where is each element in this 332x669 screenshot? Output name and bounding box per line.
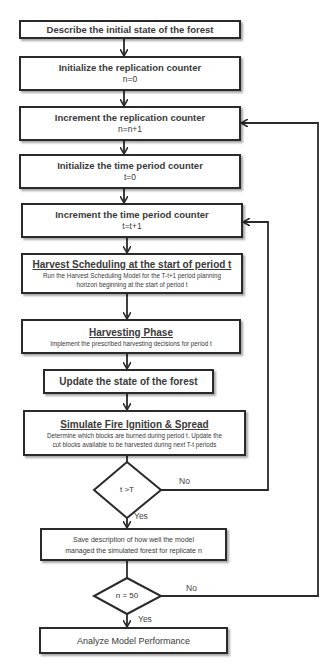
decision-rep-check: n = 50 [104,591,150,600]
decision-rep-check-yes-label: Yes [138,614,152,624]
step-save-description: Save description of how well the model m… [40,528,227,561]
step-increment-time: Increment the time period counter t=t+1 [21,203,243,238]
step-text: Initialize the replication counter [59,62,202,74]
step-formula: t=t+1 [122,221,141,232]
step-increment-replication: Increment the replication counter n=n+1 [19,106,241,141]
step-text: Describe the initial state of the forest [47,24,214,36]
loop-rep-no [161,123,318,596]
step-desc-line1: Determine which blocks are burned during… [47,431,222,440]
step-desc-line2: cut blocks available to be harvested dur… [52,440,216,449]
step-desc-line2: horizon beginning at the start of period… [77,280,188,289]
step-heading: Simulate Fire Ignition & Spread [60,418,208,431]
step-text: Update the state of the forest [59,376,197,388]
decision-time-check: t >T [104,485,150,494]
step-harvest-scheduling: Harvest Scheduling at the start of perio… [21,253,243,294]
step-desc-line1: Save description of how well the model [73,534,194,545]
step-desc-line1: Implement the prescribed harvesting deci… [50,339,212,348]
step-text: Increment the replication counter [55,112,205,124]
step-update-forest: Update the state of the forest [43,369,214,394]
step-text: Analyze Model Performance [77,635,190,647]
decision-time-check-yes-label: Yes [134,511,148,521]
step-simulate-fire: Simulate Fire Ignition & Spread Determin… [23,410,246,456]
decision-time-check-no-label: No [179,476,190,486]
step-initialize-replication: Initialize the replication counter n=0 [19,56,241,91]
step-describe-initial-state: Describe the initial state of the forest [19,20,241,39]
step-initialize-time: Initialize the time period counter t=0 [19,154,241,189]
step-text: Initialize the time period counter [57,160,203,172]
step-formula: n=n+1 [118,124,142,135]
step-formula: t=0 [124,172,136,183]
step-formula: n=0 [123,74,137,85]
step-heading: Harvesting Phase [89,326,173,339]
step-desc-line1: Run the Harvest Scheduling Model for the… [43,271,221,280]
step-heading: Harvest Scheduling at the start of perio… [33,258,232,271]
step-harvesting-phase: Harvesting Phase Implement the prescribe… [21,319,241,354]
step-desc-line2: managed the simulated forest for replica… [65,545,202,556]
step-analyze-performance: Analyze Model Performance [39,627,228,654]
step-text: Increment the time period counter [55,209,209,221]
decision-rep-check-no-label: No [186,583,197,593]
